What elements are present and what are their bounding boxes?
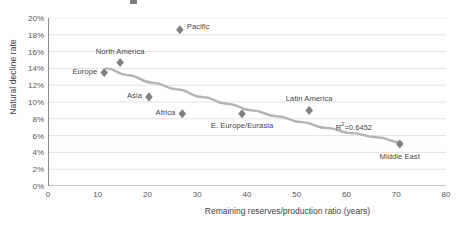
clipped-mark-top	[130, 0, 137, 4]
point-label: Pacific	[187, 22, 210, 31]
x-tick-label: 0	[46, 190, 50, 199]
plot-area: 0%2%4%6%8%10%12%14%16%18%20%010203040506…	[48, 18, 446, 186]
point-label: Asia	[127, 91, 142, 100]
data-point-marker[interactable]	[238, 109, 246, 118]
data-point-marker[interactable]	[145, 92, 153, 101]
data-point-marker[interactable]	[176, 25, 184, 34]
data-point-marker[interactable]	[116, 58, 124, 67]
y-tick-label: 10%	[28, 98, 44, 107]
data-point-marker[interactable]	[305, 106, 313, 115]
y-tick-label: 8%	[32, 114, 44, 123]
y-tick-label: 2%	[32, 165, 44, 174]
y-tick-label: 6%	[32, 131, 44, 140]
data-point-marker[interactable]	[179, 109, 187, 118]
y-tick-label: 20%	[28, 14, 44, 23]
y-tick-label: 0%	[32, 182, 44, 191]
x-tick-label: 60	[342, 190, 351, 199]
r-squared-annotation: R2=0.6452	[336, 121, 372, 132]
point-label: Europe	[72, 67, 97, 76]
x-tick-label: 80	[442, 190, 451, 199]
point-label: Latin America	[286, 94, 333, 103]
data-point-marker[interactable]	[396, 139, 404, 148]
x-tick-label: 70	[392, 190, 401, 199]
y-tick-label: 14%	[28, 64, 44, 73]
point-label: Middle East	[380, 152, 420, 161]
y-tick-label: 12%	[28, 81, 44, 90]
x-tick-label: 20	[143, 190, 152, 199]
x-tick-label: 10	[93, 190, 102, 199]
x-axis-title: Remaining reserves/production ratio (yea…	[0, 206, 457, 216]
point-label: North America	[96, 47, 145, 56]
y-axis-title: Natural decline rate	[8, 12, 18, 142]
point-label: E. Europe/Eurasia	[211, 121, 273, 130]
x-tick-label: 30	[193, 190, 202, 199]
y-tick-label: 16%	[28, 47, 44, 56]
point-label: Africa	[156, 108, 176, 117]
x-tick-label: 40	[243, 190, 252, 199]
x-tick-label: 50	[292, 190, 301, 199]
scatter-chart: Natural decline rate Remaining reserves/…	[0, 0, 457, 226]
y-tick-label: 18%	[28, 30, 44, 39]
y-tick-label: 4%	[32, 148, 44, 157]
